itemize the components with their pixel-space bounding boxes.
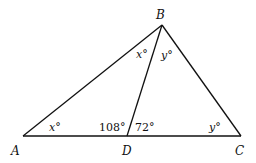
triangle-diagram: B A D C x° y° x° 108° 72° y°: [0, 0, 256, 163]
angle-bcd-label: y°: [208, 121, 221, 134]
vertex-label-c: C: [235, 144, 244, 158]
angle-abd-label: x°: [136, 48, 148, 61]
angle-bad-label: x°: [49, 121, 61, 134]
angle-dbc-label: y°: [160, 49, 173, 62]
segment-bc: [162, 25, 241, 136]
angle-adb-label: 108°: [99, 121, 126, 134]
segment-ab: [23, 25, 162, 136]
vertex-label-d: D: [121, 144, 132, 158]
vertex-label-a: A: [10, 144, 20, 158]
segment-bd: [127, 25, 162, 136]
vertex-label-b: B: [155, 8, 165, 22]
angle-bdc-label: 72°: [135, 121, 155, 134]
